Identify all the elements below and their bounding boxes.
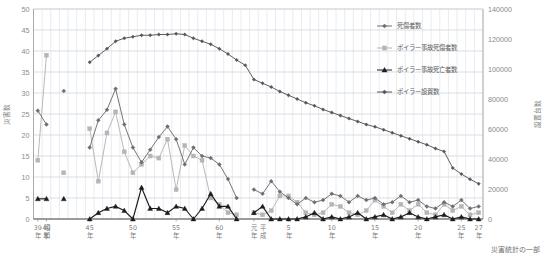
data-point-marker: [381, 212, 386, 216]
data-point-marker: [442, 150, 445, 153]
data-point-marker: [44, 53, 48, 57]
data-point-marker: [140, 34, 143, 37]
data-point-marker: [131, 146, 135, 150]
data-point-marker: [62, 171, 66, 175]
y-tick-label: 5: [26, 194, 30, 203]
x-tick-era-label: 平: [260, 224, 267, 232]
data-point-marker: [157, 156, 161, 160]
y2-tick-label: 40000: [488, 155, 508, 164]
data-point-marker: [278, 194, 282, 198]
grid-layer: [34, 9, 484, 219]
data-point-marker: [166, 33, 169, 36]
data-point-marker: [416, 202, 420, 206]
data-point-marker: [313, 104, 316, 107]
y-tick-label: 50: [22, 5, 30, 14]
x-tick-label: 20: [414, 224, 422, 232]
data-point-marker: [347, 117, 350, 120]
data-point-marker: [270, 85, 273, 88]
data-point-marker: [391, 131, 394, 134]
x-tick-label-unit: 年: [251, 231, 258, 240]
y-tick-label: 10: [22, 173, 30, 182]
x-tick-label-unit: 年: [372, 231, 379, 240]
data-point-marker: [365, 123, 368, 126]
data-point-marker: [88, 127, 92, 131]
data-point-marker: [390, 211, 394, 215]
y2-tick-label: 120000: [488, 35, 512, 44]
x-tick-label: 25: [457, 224, 465, 232]
y2-axis-tick-labels: 020000400006000080000100000120000140000: [488, 5, 512, 224]
legend-item-0: 死傷者数: [377, 21, 422, 30]
data-point-marker: [183, 144, 187, 148]
data-point-marker: [330, 202, 334, 206]
y2-tick-label: 140000: [488, 5, 512, 14]
data-point-marker: [114, 87, 118, 91]
data-point-marker: [260, 204, 265, 208]
x-tick-label-unit: 年: [216, 231, 223, 240]
y-tick-label: 30: [22, 89, 30, 98]
y2-axis-title: 設置台数: [533, 100, 542, 128]
data-point-marker: [364, 198, 368, 202]
data-point-marker: [61, 196, 66, 200]
data-point-marker: [226, 177, 230, 181]
y-axis-title: 災害数: [2, 104, 11, 125]
y-tick-label: 40: [22, 47, 30, 56]
data-point-marker: [226, 211, 230, 215]
y-tick-label: 45: [22, 26, 30, 35]
x-tick-label: 55: [172, 224, 180, 232]
data-point-marker: [123, 37, 126, 40]
data-point-marker: [192, 37, 195, 40]
data-point-marker: [321, 108, 324, 111]
data-point-marker: [122, 150, 126, 154]
data-point-marker: [477, 182, 480, 185]
data-point-marker: [191, 154, 195, 158]
data-point-marker: [165, 137, 169, 141]
data-point-marker: [329, 214, 334, 218]
chart-caption-text: 災害統計の一部: [491, 245, 540, 254]
data-point-marker: [200, 40, 203, 43]
data-point-marker: [157, 33, 160, 36]
data-point-marker: [399, 134, 402, 137]
chart-legend: 死傷者数ボイラー事故死傷者数ボイラー事故死亡者数ボイラー設置数: [377, 21, 458, 96]
y-tick-label: 15: [22, 152, 30, 161]
x-tick-label-unit: 年: [35, 231, 42, 240]
y-tick-label: 20: [22, 131, 30, 140]
data-point-marker: [287, 94, 290, 97]
x-tick-label: 15: [371, 224, 379, 232]
data-point-marker: [252, 188, 256, 192]
data-point-marker: [122, 123, 126, 127]
legend-item-2: ボイラー事故死亡者数: [377, 65, 458, 74]
y2-tick-label: 20000: [488, 185, 508, 194]
x-tick-label: 27: [475, 224, 483, 232]
data-point-marker: [304, 101, 307, 104]
x-axis-tick-labels: 39年昭和40年45年50年55年60年元年平成5年10年15年20年25年27…: [34, 219, 483, 240]
data-point-marker: [321, 211, 325, 215]
y2-tick-label: 60000: [488, 125, 508, 134]
data-point-marker: [451, 209, 455, 213]
data-point-marker: [477, 204, 481, 208]
x-tick-label: 5: [286, 224, 290, 232]
data-point-marker: [355, 210, 360, 214]
data-point-marker: [459, 214, 464, 218]
data-point-marker: [382, 90, 386, 94]
x-tick-label-unit: 年: [415, 231, 422, 240]
chart-caption: 災害統計の一部: [491, 245, 540, 254]
x-tick-label: 45: [86, 224, 94, 232]
data-point-marker: [105, 131, 109, 135]
chart-container: 05101520253035404550 0200004000060000800…: [0, 0, 546, 257]
data-point-marker: [174, 188, 178, 192]
data-point-marker: [442, 212, 447, 216]
data-point-marker: [408, 137, 411, 140]
x-tick-label: 40: [42, 224, 50, 232]
y-tick-label: 25: [22, 110, 30, 119]
data-point-marker: [399, 202, 403, 206]
data-point-marker: [114, 110, 118, 114]
data-point-marker: [425, 211, 429, 215]
x-tick-label: 60: [215, 224, 223, 232]
x-tick-label: 10: [328, 224, 336, 232]
data-point-marker: [96, 179, 100, 183]
data-point-marker: [261, 213, 265, 217]
boiler-accident-line-chart: 05101520253035404550 0200004000060000800…: [0, 0, 546, 257]
data-point-marker: [62, 89, 66, 93]
data-point-marker: [312, 210, 317, 214]
legend-label: ボイラー事故死傷者数: [397, 43, 458, 52]
